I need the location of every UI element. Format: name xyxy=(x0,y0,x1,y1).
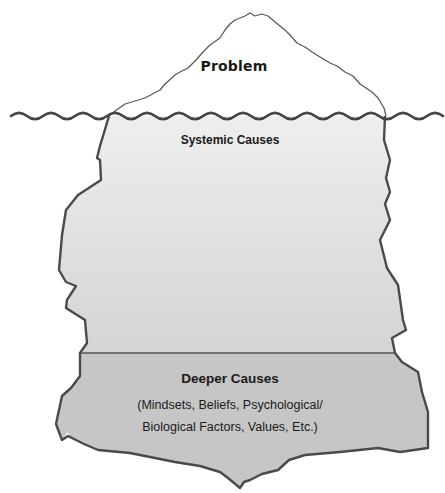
systemic-causes-region xyxy=(60,116,406,353)
systemic-causes-label: Systemic Causes xyxy=(160,133,300,147)
deeper-causes-label: Deeper Causes xyxy=(110,371,350,386)
deeper-causes-description-line: Biological Factors, Values, Etc.) xyxy=(90,416,370,438)
deeper-causes-description: (Mindsets, Beliefs, Psychological/ Biolo… xyxy=(90,394,370,438)
deeper-causes-description-line: (Mindsets, Beliefs, Psychological/ xyxy=(90,394,370,416)
problem-label: Problem xyxy=(174,58,294,74)
